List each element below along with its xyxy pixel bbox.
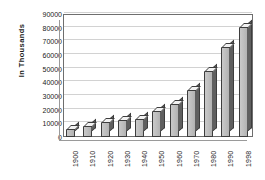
y-tick-label: 40000 (43, 79, 62, 86)
y-tick-label: 70000 (43, 38, 62, 45)
gridline-90000 (64, 12, 252, 13)
x-tick-label: 1990 (227, 151, 234, 167)
y-tick-label: 80000 (43, 24, 62, 31)
bar-front-face (170, 104, 179, 137)
x-tick-label: 1900 (72, 151, 79, 167)
bar-front-face (204, 71, 213, 137)
bar-front-face (221, 47, 230, 137)
x-tick-label: 1910 (89, 151, 96, 167)
bar-front-face (66, 129, 75, 137)
x-tick-label: 1980 (210, 151, 217, 167)
y-tick-label: 20000 (43, 106, 62, 113)
x-tick-label: 1970 (193, 151, 200, 167)
y-tick-label: 50000 (43, 65, 62, 72)
y-tick-label: 0 (58, 134, 62, 141)
y-tick-label: 30000 (43, 93, 62, 100)
x-tick-label: 1960 (176, 151, 183, 167)
bar-front-face (135, 119, 144, 137)
y-tick-label: 10000 (43, 120, 62, 127)
y-axis-tick-labels: 9000080000700006000050000400003000020000… (24, 14, 62, 137)
y-tick-label: 60000 (43, 52, 62, 59)
x-tick-label: 1920 (107, 151, 114, 167)
x-tick-label: 1998 (245, 151, 252, 167)
y-tick-label: 90000 (43, 11, 62, 18)
bar-front-face (239, 27, 248, 137)
bar-side-face (212, 64, 217, 132)
bar-series (63, 14, 253, 137)
bar-side-face (247, 20, 252, 132)
x-tick-label: 1930 (124, 151, 131, 167)
bar-front-face (152, 111, 161, 137)
x-tick-label: 1950 (158, 151, 165, 167)
x-axis-tick-labels: 1900191019201930194019501960197019801990… (63, 139, 253, 179)
bar-chart: In Thousands 900008000070000600005000040… (0, 0, 265, 180)
bar-front-face (101, 122, 110, 137)
bar-side-face (229, 40, 234, 132)
bar-front-face (83, 126, 92, 137)
x-tick-label: 1940 (141, 151, 148, 167)
bar-front-face (187, 90, 196, 137)
bar-front-face (118, 120, 127, 137)
